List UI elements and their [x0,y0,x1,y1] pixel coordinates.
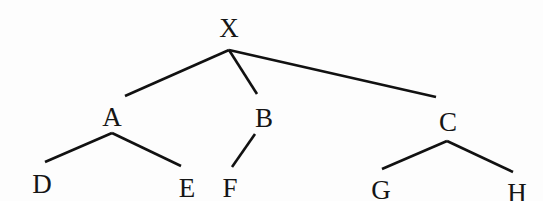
tree-diagram-svg: X A B C D E F G H [0,0,543,201]
node-c: C [439,107,457,137]
node-f: F [222,173,237,201]
node-a: A [102,102,122,132]
edge-c-h [447,141,513,172]
edge-b-f [232,134,255,167]
node-x: X [219,13,239,43]
node-d: D [32,169,52,199]
node-b: B [255,103,273,133]
edge-a-d [45,133,112,162]
edge-c-g [382,141,447,169]
tree-nodes: X A B C D E F G H [32,13,527,201]
edge-a-e [112,133,181,166]
node-e: E [179,173,196,201]
edge-x-c [229,50,436,97]
node-h: H [507,178,527,201]
tree-diagram: X A B C D E F G H [0,0,543,201]
node-g: G [371,175,391,201]
edge-x-a [125,50,229,96]
